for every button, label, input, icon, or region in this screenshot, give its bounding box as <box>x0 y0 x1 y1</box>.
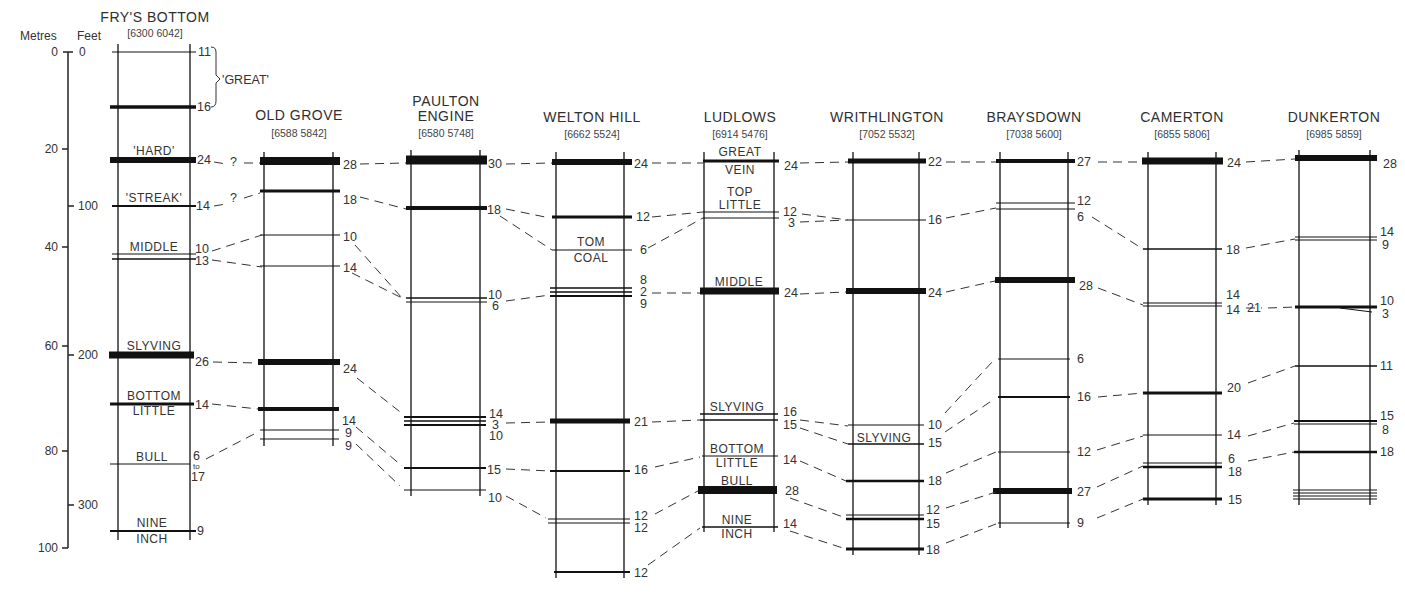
svg-text:3: 3 <box>788 216 795 230</box>
svg-text:15: 15 <box>928 436 942 450</box>
svg-text:24: 24 <box>1227 156 1241 170</box>
svg-text:12: 12 <box>1077 445 1091 459</box>
svg-text:VEIN: VEIN <box>725 163 755 177</box>
svg-text:LITTLE: LITTLE <box>719 198 761 212</box>
svg-text:SLYVING: SLYVING <box>857 431 912 445</box>
svg-text:MIDDLE: MIDDLE <box>130 240 178 254</box>
svg-text:24: 24 <box>784 159 798 173</box>
svg-text:24: 24 <box>197 153 211 167</box>
svg-text:14: 14 <box>783 517 797 531</box>
grid-paulton-engine: [6580 5748] <box>418 127 474 139</box>
svg-text:14: 14 <box>783 453 797 467</box>
svg-text:100: 100 <box>78 199 98 213</box>
svg-text:12: 12 <box>634 566 648 580</box>
svg-text:21: 21 <box>634 415 648 429</box>
svg-text:BULL: BULL <box>721 474 753 488</box>
feet-label: Feet <box>77 29 102 43</box>
svg-text:ENGINE: ENGINE <box>418 108 475 124</box>
svg-text:9: 9 <box>197 524 204 538</box>
svg-text:26: 26 <box>195 355 209 369</box>
title-welton-hill: WELTON HILL <box>543 109 641 125</box>
svg-text:12: 12 <box>634 521 648 535</box>
svg-text:'STREAK': 'STREAK' <box>126 191 183 205</box>
svg-text:6: 6 <box>1228 452 1235 466</box>
svg-text:11: 11 <box>198 45 211 59</box>
svg-text:6: 6 <box>1077 210 1084 224</box>
svg-text:10: 10 <box>489 429 503 443</box>
svg-text:18: 18 <box>1380 445 1394 459</box>
svg-text:LITTLE: LITTLE <box>716 456 758 470</box>
svg-text:27: 27 <box>1077 155 1091 169</box>
svg-text:8: 8 <box>1382 423 1389 437</box>
metres-tick-labels: 0 20 40 60 80 100 <box>38 45 58 555</box>
svg-text:12: 12 <box>1077 194 1091 208</box>
svg-text:15: 15 <box>1380 409 1394 423</box>
svg-text:30: 30 <box>488 157 502 171</box>
svg-text:12: 12 <box>926 503 940 517</box>
uncertain-marker: ? <box>230 191 237 205</box>
grid-welton-hill: [6662 5524] <box>564 128 620 140</box>
svg-text:3: 3 <box>1382 307 1389 321</box>
title-dunkerton: DUNKERTON <box>1288 109 1381 125</box>
svg-text:LITTLE: LITTLE <box>133 404 175 418</box>
great-bracket <box>211 47 220 107</box>
svg-text:6: 6 <box>492 299 499 313</box>
svg-text:14: 14 <box>1380 225 1394 239</box>
svg-text:16: 16 <box>928 213 942 227</box>
grid-ludlows: [6914 5476] <box>712 128 768 140</box>
svg-text:18: 18 <box>487 203 501 217</box>
svg-text:COAL: COAL <box>574 251 609 265</box>
svg-text:18: 18 <box>343 193 357 207</box>
grid-camerton: [6855 5806] <box>1154 128 1210 140</box>
svg-text:9: 9 <box>640 297 647 311</box>
svg-text:11: 11 <box>1380 359 1393 373</box>
svg-text:15: 15 <box>487 463 501 477</box>
svg-text:NINE: NINE <box>137 516 168 530</box>
svg-text:300: 300 <box>78 498 98 512</box>
svg-text:16: 16 <box>197 100 211 114</box>
svg-text:NINE: NINE <box>722 513 753 527</box>
svg-text:9: 9 <box>1382 238 1389 252</box>
depth-scale <box>62 52 74 548</box>
svg-text:18: 18 <box>926 543 940 557</box>
svg-text:9: 9 <box>345 439 352 453</box>
svg-text:14: 14 <box>1226 288 1240 302</box>
seams-dunkerton <box>1293 158 1377 499</box>
seams-paulton-engine <box>404 160 487 490</box>
seams-ludlows <box>698 161 779 527</box>
svg-text:9: 9 <box>345 426 352 440</box>
grid-frys-bottom: [6300 6042] <box>127 27 183 39</box>
svg-text:BOTTOM: BOTTOM <box>127 389 181 403</box>
correlation-lines <box>206 159 1295 565</box>
svg-text:24: 24 <box>928 286 942 300</box>
svg-text:10: 10 <box>488 491 502 505</box>
svg-text:28: 28 <box>343 158 357 172</box>
grid-dunkerton: [6985 5859] <box>1306 128 1362 140</box>
svg-text:18: 18 <box>1228 465 1242 479</box>
svg-text:6: 6 <box>640 243 647 257</box>
svg-text:40: 40 <box>45 240 59 254</box>
svg-text:200: 200 <box>78 348 98 362</box>
svg-text:TOP: TOP <box>727 185 753 199</box>
column-titles: FRY'S BOTTOM [6300 6042] OLD GROVE [6588… <box>100 9 1380 140</box>
svg-text:16: 16 <box>1077 390 1091 404</box>
svg-text:14: 14 <box>343 261 357 275</box>
svg-text:GREAT: GREAT <box>719 145 762 159</box>
seams-old-grove <box>258 161 340 439</box>
svg-text:27: 27 <box>1077 485 1091 499</box>
svg-text:10: 10 <box>928 418 942 432</box>
svg-text:MIDDLE: MIDDLE <box>715 275 763 289</box>
svg-text:0: 0 <box>79 45 86 59</box>
metres-label: Metres <box>20 29 57 43</box>
seams-welton-hill <box>548 162 632 572</box>
svg-text:14: 14 <box>196 199 210 213</box>
svg-text:24: 24 <box>784 286 798 300</box>
title-ludlows: LUDLOWS <box>704 109 777 125</box>
svg-text:18: 18 <box>1226 243 1240 257</box>
seams-writhlington <box>846 161 926 549</box>
svg-text:16: 16 <box>783 405 797 419</box>
svg-text:TOM: TOM <box>577 235 605 249</box>
title-writhlington: WRITHLINGTON <box>830 109 944 125</box>
svg-text:14: 14 <box>1227 428 1241 442</box>
seam-correlation-diagram: Metres Feet 0 20 40 60 80 100 0 100 200 … <box>0 0 1405 595</box>
